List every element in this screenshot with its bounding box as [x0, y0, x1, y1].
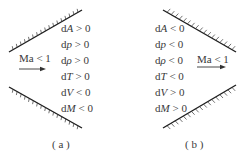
flow-arrow-icon-a: [19, 67, 46, 71]
hatch-mark: [232, 46, 235, 49]
hatch-mark: [216, 37, 219, 40]
relation-1-5: dM > 0: [155, 102, 187, 114]
panel-a: Ma < 1 dA > 0dp > 0dρ > 0dT > 0dV < 0dM …: [9, 9, 93, 151]
hatch-mark: [77, 126, 78, 129]
relation-1-0: dA < 0: [155, 22, 185, 34]
hatch-mark: [65, 119, 66, 122]
diagram-canvas: Ma < 1 dA > 0dp > 0dρ > 0dT > 0dV < 0dM …: [0, 0, 243, 157]
hatch-mark: [41, 30, 42, 33]
hatch-mark: [65, 16, 66, 19]
hatch-mark: [212, 99, 215, 102]
hatch-mark: [175, 14, 178, 17]
nozzle-diffuser-diagram: Ma < 1 dA > 0dp > 0dρ > 0dT > 0dV < 0dM …: [0, 0, 243, 157]
relation-0-4: dV < 0: [61, 86, 91, 98]
hatch-mark: [171, 123, 174, 126]
hatch-mark: [175, 121, 178, 124]
relation-1-3: dT < 0: [155, 70, 184, 82]
relations-list-b: dA < 0dp < 0dρ < 0dT < 0dV > 0dM > 0: [155, 22, 187, 114]
hatch-mark: [200, 107, 203, 110]
hatch-mark: [49, 110, 50, 113]
flow-label-b: Ma < 1: [197, 53, 229, 65]
hatch-mark: [20, 94, 21, 97]
caption-a: ( a ): [52, 138, 70, 151]
hatch-mark: [212, 35, 215, 38]
hatch-mark: [45, 108, 46, 111]
relation-0-1: dp > 0: [61, 38, 90, 50]
hatch-mark: [61, 117, 62, 120]
hatch-mark: [57, 114, 58, 117]
relation-0-0: dA > 0: [61, 22, 91, 34]
hatch-mark: [16, 44, 17, 47]
hatch-mark: [224, 92, 227, 95]
hatch-mark: [77, 9, 78, 12]
hatch-mark: [167, 126, 170, 129]
flow-label-a: Ma < 1: [19, 52, 51, 64]
hatch-mark: [24, 39, 25, 42]
relation-0-2: dρ > 0: [61, 54, 89, 66]
hatch-mark: [33, 35, 34, 38]
hatch-mark: [228, 90, 231, 93]
hatch-mark: [195, 25, 198, 28]
hatch-mark: [204, 104, 207, 107]
hatch-mark: [12, 89, 13, 92]
hatch-mark: [171, 11, 174, 14]
hatch-mark: [228, 44, 231, 47]
hatch-mark: [179, 16, 182, 19]
hatch-mark: [45, 28, 46, 31]
hatch-mark: [20, 42, 21, 45]
relation-1-4: dV > 0: [155, 86, 185, 98]
hatch-mark: [187, 114, 190, 117]
hatch-mark: [41, 105, 42, 108]
hatch-mark: [200, 28, 203, 31]
hatch-mark: [220, 39, 223, 42]
relation-1-1: dp < 0: [155, 38, 184, 50]
hatch-mark: [33, 101, 34, 104]
hatch-mark: [12, 46, 13, 49]
hatch-mark: [204, 30, 207, 33]
hatch-mark: [57, 21, 58, 24]
hatch-mark: [232, 87, 235, 90]
hatch-mark: [224, 42, 227, 45]
hatch-mark: [220, 95, 223, 98]
hatch-mark: [183, 116, 186, 119]
relation-0-5: dM < 0: [61, 102, 93, 114]
hatch-mark: [16, 92, 17, 95]
hatch-mark: [179, 118, 182, 121]
hatch-mark: [216, 97, 219, 100]
hatch-mark: [208, 102, 211, 105]
hatch-mark: [73, 123, 74, 126]
hatch-mark: [69, 121, 70, 124]
caption-b: ( b ): [185, 138, 204, 151]
hatch-mark: [29, 98, 30, 101]
panel-b: Ma < 1 dA < 0dp < 0dρ < 0dT < 0dV > 0dM …: [155, 9, 236, 151]
hatch-mark: [208, 32, 211, 35]
relation-0-3: dT > 0: [61, 70, 90, 82]
hatch-mark: [73, 11, 74, 14]
relation-1-2: dρ < 0: [155, 54, 183, 66]
hatch-mark: [24, 96, 25, 99]
hatch-mark: [37, 32, 38, 35]
hatch-mark: [191, 111, 194, 114]
hatch-mark: [195, 109, 198, 112]
hatch-mark: [28, 37, 29, 40]
flow-arrow-icon-b: [197, 65, 226, 69]
hatch-mark: [187, 21, 190, 24]
hatch-mark: [191, 23, 194, 26]
hatch-mark: [167, 9, 170, 12]
hatch-mark: [53, 112, 54, 115]
hatch-mark: [49, 25, 50, 28]
hatch-mark: [53, 23, 54, 26]
hatch-mark: [37, 103, 38, 106]
hatch-mark: [69, 14, 70, 17]
relations-list-a: dA > 0dp > 0dρ > 0dT > 0dV < 0dM < 0: [61, 22, 93, 114]
